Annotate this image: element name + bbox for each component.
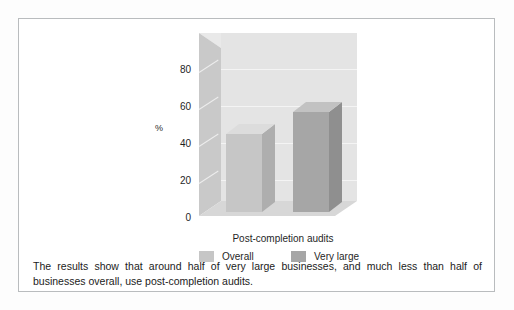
bar-very-large[interactable]: [293, 112, 329, 212]
plot-left-wall: [199, 33, 222, 216]
caption-block: The results show that around half of ver…: [19, 259, 496, 289]
y-tick-label-20: 20: [165, 175, 191, 186]
bar-overall-side: [262, 124, 275, 212]
bar-very-large-side: [329, 102, 342, 212]
bar-chart: % 80 60 40 20 0: [19, 19, 496, 237]
figure-card: % 80 60 40 20 0: [18, 18, 495, 292]
y-tick-label-60: 60: [165, 101, 191, 112]
bar-very-large-front: [293, 112, 329, 212]
y-tick-label-80: 80: [165, 64, 191, 75]
bar-overall[interactable]: [226, 134, 262, 212]
y-tick-label-0: 0: [165, 212, 191, 223]
gridline-80: [221, 69, 357, 70]
plot-area: [199, 33, 357, 216]
y-axis-label: %: [155, 123, 163, 133]
figure-page: % 80 60 40 20 0: [0, 0, 514, 310]
figure-caption: The results show that around half of ver…: [33, 259, 482, 289]
y-tick-label-40: 40: [165, 138, 191, 149]
x-category-label: Post-completion audits: [199, 233, 367, 244]
bar-overall-front: [226, 134, 262, 212]
